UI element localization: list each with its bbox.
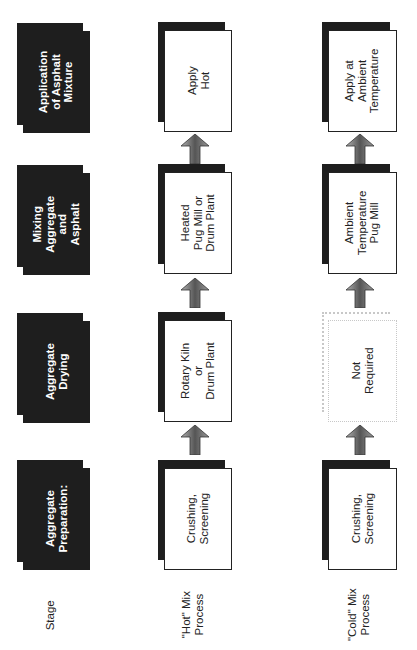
arrow-up-icon [181,278,209,308]
cold-box-apply: Apply at Ambient Temperature [322,22,398,133]
row-label-stage: Stage [30,585,70,645]
row-label-cold: "Cold" Mix Process [336,585,381,645]
stage-label: Application of Asphalt Mixture [38,51,76,114]
process-label: Crushing, Screening [185,493,210,545]
stage-label: Aggregate Drying [44,344,69,401]
stage-box-mixing: Mixing Aggregate and Asphalt [17,165,91,275]
arrow-up-icon [181,425,209,455]
arrow-up-icon [181,134,209,164]
process-label: Apply at Ambient Temperature [344,49,382,114]
process-label: Crushing, Screening [350,493,375,545]
process-label: Rotary Kiln or Drum Plant [179,342,217,400]
row-label-hot: "Hot" Mix Process [170,585,215,645]
arrow-up-icon [346,134,374,164]
hot-box-mixing: Heated Pug Mill or Drum Plant [158,164,233,275]
cold-box-mixing: Ambient Temperature Pug Mill [322,164,398,275]
hot-box-preparation: Crushing, Screening [158,460,233,571]
stage-box-application: Application of Asphalt Mixture [17,23,91,133]
stage-label: Aggregate Preparation: [44,485,69,553]
process-label: Ambient Temperature Pug Mill [344,191,382,256]
process-label: Not Required [350,348,375,395]
arrow-up-icon [346,278,374,308]
process-label: Heated Pug Mill or Drum Plant [179,194,217,252]
cold-box-preparation: Crushing, Screening [322,460,398,571]
stage-box-preparation: Aggregate Preparation: [17,460,91,570]
stage-box-drying: Aggregate Drying [17,313,91,423]
cold-box-drying-not-required: Not Required [322,312,398,423]
hot-box-drying: Rotary Kiln or Drum Plant [158,312,233,423]
stage-label: Mixing Aggregate and Asphalt [31,196,82,253]
hot-box-apply: Apply Hot [158,22,233,133]
arrow-up-icon [346,425,374,455]
process-label: Apply Hot [185,67,210,96]
